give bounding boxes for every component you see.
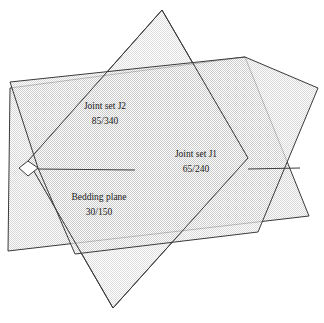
plane-diagram-svg: Joint set J2 85/340 Joint set J1 65/240 … — [0, 0, 324, 323]
label-bedding-plane-orientation: 30/150 — [86, 207, 113, 217]
label-bedding-plane-name: Bedding plane — [71, 192, 126, 202]
label-joint-set-j1-orientation: 65/240 — [183, 164, 210, 174]
label-joint-set-j2-orientation: 85/340 — [92, 116, 119, 126]
label-joint-set-j2-name: Joint set J2 — [84, 101, 126, 111]
plane-diagram-canvas: Joint set J2 85/340 Joint set J1 65/240 … — [0, 0, 324, 323]
label-joint-set-j1-name: Joint set J1 — [175, 149, 217, 159]
